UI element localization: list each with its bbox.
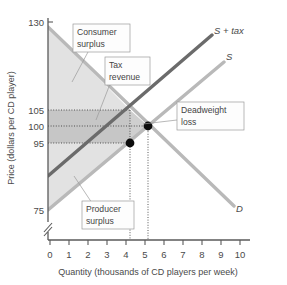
chart-svg: 130 105 100 95 75 0 1 2 3 4 5 6 7 8 9 10… (0, 0, 287, 285)
x-tick-marks (50, 240, 240, 245)
callout-deadweight-loss: Deadweight loss (177, 102, 244, 130)
supply-label: S (226, 51, 233, 62)
producer-surplus-line1: Producer (86, 204, 121, 214)
y-axis-break-mark-1 (44, 223, 52, 232)
y-tick-label-130: 130 (28, 17, 44, 28)
y-tick-label-95: 95 (33, 138, 44, 149)
x-tick-label-7: 7 (180, 249, 185, 260)
consumer-surplus-line1: Consumer (77, 27, 117, 37)
callout-tax-revenue: Tax revenue (105, 57, 150, 85)
y-tick-labels: 130 105 100 95 75 (28, 17, 44, 216)
deadweight-loss-line1: Deadweight (181, 105, 227, 115)
y-tick-label-75: 75 (33, 205, 44, 216)
shaded-regions (48, 27, 148, 210)
tax-revenue-line1: Tax (109, 60, 123, 70)
supply-plus-tax-label: S + tax (214, 25, 245, 36)
callout-consumer-surplus: Consumer surplus (73, 24, 130, 52)
x-tick-label-6: 6 (161, 249, 166, 260)
x-axis-label: Quantity (thousands of CD players per we… (58, 267, 238, 277)
x-tick-label-3: 3 (104, 249, 109, 260)
tax-revenue-line2: revenue (109, 72, 140, 82)
x-tick-labels: 0 1 2 3 4 5 6 7 8 9 10 (47, 249, 245, 260)
x-tick-label-1: 1 (66, 249, 71, 260)
marker-seller-price (126, 139, 135, 148)
callout-producer-surplus: Producer surplus (82, 201, 134, 229)
supply-demand-tax-figure: 130 105 100 95 75 0 1 2 3 4 5 6 7 8 9 10… (0, 0, 287, 285)
x-tick-label-2: 2 (85, 249, 90, 260)
demand-label: D (236, 203, 243, 214)
producer-surplus-line2: surplus (86, 216, 114, 226)
y-tick-label-105: 105 (28, 105, 44, 116)
x-tick-label-5: 5 (142, 249, 147, 260)
x-tick-label-8: 8 (199, 249, 204, 260)
deadweight-loss-line2: loss (181, 117, 196, 127)
x-tick-label-9: 9 (218, 249, 223, 260)
x-tick-label-10: 10 (235, 249, 246, 260)
x-tick-label-4: 4 (123, 249, 128, 260)
y-tick-label-100: 100 (28, 121, 44, 132)
y-axis-label: Price (dollars per CD player) (6, 71, 16, 185)
x-tick-label-0: 0 (47, 249, 52, 260)
consumer-surplus-line2: surplus (77, 39, 105, 49)
